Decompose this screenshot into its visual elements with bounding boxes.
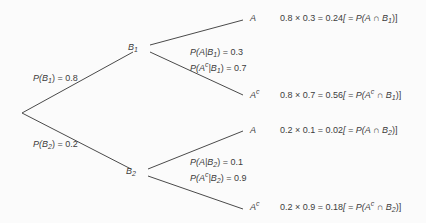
branch-label-pb2: P(B2) = 0.2 [33,140,78,149]
node-label-b1: B1 [128,43,138,52]
conditional-label-a-given-b2: P(A|B2) = 0.1 [190,158,243,167]
node-label-b2: B2 [126,167,136,176]
leaf-label-a-b1: A [250,14,256,23]
product-expression-ac-b2: 0.2 × 0.9 = 0.18[ = P(Ac ∩ B2)] [280,203,401,212]
product-expression-ac-b1: 0.8 × 0.7 = 0.56[ = P(Ac ∩ B1)] [280,91,401,100]
conditional-label-a-given-b1: P(A|B1) = 0.3 [190,48,243,57]
tree-branch-lines [0,0,426,223]
leaf-label-ac-b1: Ac [250,91,260,100]
branch-b1-to-a [150,20,243,45]
product-expression-a-b1: 0.8 × 0.3 = 0.24[ = P(A ∩ B1)] [280,14,397,23]
probability-tree-diagram: B1 B2 P(B1) = 0.8 P(B2) = 0.2 P(A|B1) = … [0,0,426,223]
leaf-label-ac-b2: Ac [250,203,260,212]
leaf-label-a-b2: A [250,126,256,135]
product-expression-a-b2: 0.2 × 0.1 = 0.02[ = P(A ∩ B2)] [280,126,397,135]
conditional-label-ac-given-b1: P(Ac|B1) = 0.7 [190,64,247,73]
branch-b1-to-ac [150,52,243,95]
conditional-label-ac-given-b2: P(Ac|B2) = 0.9 [190,174,247,183]
branch-label-pb1: P(B1) = 0.8 [33,74,78,83]
